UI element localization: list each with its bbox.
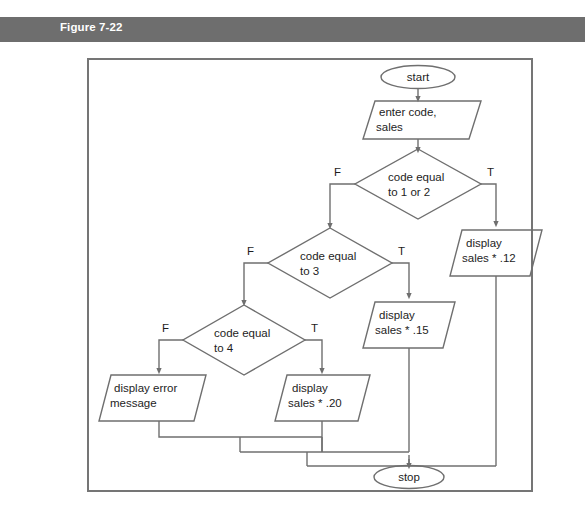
node-decision1-shape <box>355 149 481 219</box>
edge-decision3-true <box>305 340 322 371</box>
node-output12-shape <box>450 230 542 276</box>
edge-decision2-false <box>244 263 268 303</box>
flowchart-canvas <box>0 0 585 515</box>
node-decision2-shape <box>268 228 392 298</box>
edge-decision3-false <box>159 340 183 371</box>
node-output15-shape <box>363 302 455 348</box>
edge-decision2-true <box>392 263 409 296</box>
node-stop-shape <box>374 466 444 489</box>
edge-decision1-false <box>330 184 355 226</box>
node-output20-shape <box>275 375 370 421</box>
figure-page: Figure 7-22 <box>0 0 585 515</box>
node-outputerror-shape <box>99 375 206 421</box>
node-decision3-shape <box>183 305 305 375</box>
node-input-shape <box>363 101 481 139</box>
node-start-shape <box>381 66 455 89</box>
flowchart-svg <box>0 0 585 515</box>
edge-decision1-true <box>481 184 496 224</box>
edge-outputerror-to-rail <box>159 421 322 437</box>
